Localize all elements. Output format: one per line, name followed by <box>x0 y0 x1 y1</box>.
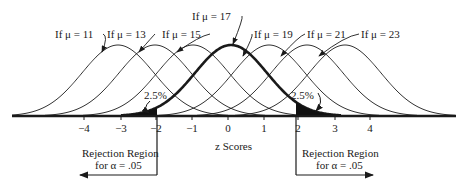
axis-tick-label: −2 <box>150 122 162 134</box>
curve-label-mu-19: If μ = 19 <box>254 28 293 40</box>
curve-label-mu-17: If μ = 17 <box>192 10 231 22</box>
normal-curve-mu-23 <box>235 45 455 115</box>
curve-label-mu-23: If μ = 23 <box>361 28 400 40</box>
normal-curve-mu-13 <box>45 45 265 115</box>
curve-label-mu-15: If μ = 15 <box>162 28 201 40</box>
sampling-distributions-diagram: −4−3−2−101234 z Scores If μ = 11If μ = 1… <box>0 0 467 192</box>
curve-label-mu-13: If μ = 13 <box>107 28 146 40</box>
normal-curve-mu-11 <box>12 45 228 115</box>
normal-curves <box>12 45 455 115</box>
axis-tick-label: 1 <box>261 122 267 134</box>
axis-ticks: −4−3−2−101234 <box>78 116 373 134</box>
curve-label-mu-11: If μ = 11 <box>55 28 93 40</box>
axis-label: z Scores <box>215 140 252 152</box>
curve-labels: If μ = 11If μ = 13If μ = 15If μ = 17If μ… <box>55 10 400 56</box>
pointer-arrow-icon <box>233 16 242 44</box>
normal-curve-mu-15 <box>83 45 303 115</box>
axis-tick-label: −4 <box>78 122 90 134</box>
axis-tick-label: 4 <box>367 122 373 134</box>
right-rejection-line2: for α = .05 <box>316 159 363 171</box>
normal-curve-mu-19 <box>159 45 379 115</box>
right-rejection-line1: Rejection Region <box>302 147 379 159</box>
right-tail-percent: 2.5% <box>291 89 314 101</box>
left-rejection-line2: for α = .05 <box>95 159 142 171</box>
curve-label-mu-21: If μ = 21 <box>307 28 346 40</box>
axis-tick-label: 3 <box>332 122 338 134</box>
normal-curve-mu-17 <box>121 45 341 115</box>
left-rejection-line1: Rejection Region <box>82 147 159 159</box>
axis-tick-label: −1 <box>186 122 198 134</box>
axis-tick-label: −3 <box>115 122 127 134</box>
left-tail-percent: 2.5% <box>144 89 167 101</box>
right-tail-arrow-icon <box>316 93 321 111</box>
normal-curve-mu-21 <box>197 45 417 115</box>
axis-tick-label: 0 <box>225 122 231 134</box>
